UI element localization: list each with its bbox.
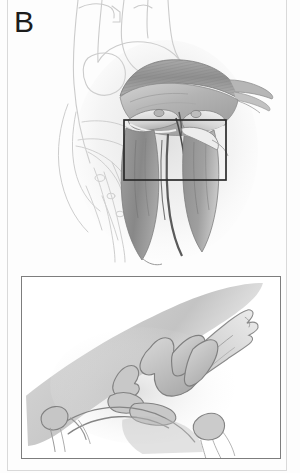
panel-label: B: [14, 7, 34, 37]
aortic-valve-vegetation-detail-illustration: [22, 277, 280, 458]
main-illustration-container: [16, 0, 286, 272]
magnified-detail-inset: [21, 276, 281, 459]
inset-illustration-container: [22, 277, 280, 458]
figure-panel-b: B: [0, 0, 300, 473]
heart-cutaway-aortic-root-illustration: [16, 0, 286, 272]
